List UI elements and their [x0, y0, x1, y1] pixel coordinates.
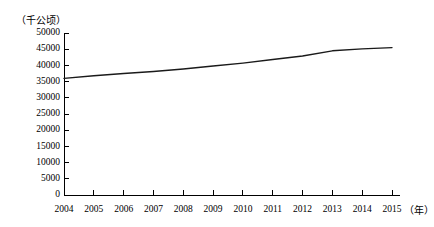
x-axis-tick-label: 2009: [204, 204, 223, 214]
x-axis-tick-label: 2013: [323, 204, 342, 214]
y-axis-tick-label: 10000: [36, 157, 60, 167]
y-axis-tick-label: 25000: [36, 108, 60, 118]
data-series-line: [64, 48, 392, 79]
y-axis-tick-label: 40000: [36, 60, 60, 70]
x-axis-tick-label: 2012: [293, 204, 312, 214]
y-axis-unit-label: （千公顷）: [16, 15, 66, 26]
y-axis-tick-label: 45000: [36, 43, 60, 53]
x-axis-tick-label: 2014: [353, 204, 372, 214]
x-axis-tick-label: 2008: [174, 204, 193, 214]
y-axis-tick-label: 30000: [36, 92, 60, 102]
line-chart-figure: （千公顷） （年） 050001000015000200002500030000…: [0, 0, 434, 227]
y-axis-tick-marks: [64, 33, 69, 195]
y-axis-tick-label: 20000: [36, 124, 60, 134]
y-axis-tick-label: 15000: [36, 141, 60, 151]
x-axis-unit-label: （年）: [404, 204, 434, 216]
y-axis-tick-label: 0: [55, 189, 60, 199]
y-axis-tick-label: 5000: [41, 173, 60, 183]
x-axis-tick-label: 2010: [233, 204, 252, 214]
x-axis-tick-labels: 2004200520062007200820092010201120122013…: [55, 204, 402, 214]
x-axis-tick-label: 2005: [84, 204, 103, 214]
x-axis-tick-label: 2006: [114, 204, 133, 214]
y-axis-tick-label: 35000: [36, 76, 60, 86]
chart-canvas: （千公顷） （年） 050001000015000200002500030000…: [0, 0, 434, 227]
x-axis-tick-label: 2007: [144, 204, 163, 214]
y-axis-tick-labels: 0500010000150002000025000300003500040000…: [36, 27, 60, 199]
x-axis-tick-label: 2011: [263, 204, 282, 214]
x-axis-tick-label: 2004: [55, 204, 74, 214]
x-axis-tick-label: 2015: [383, 204, 402, 214]
x-axis-tick-marks: [94, 190, 392, 195]
y-axis-tick-label: 50000: [36, 27, 60, 37]
